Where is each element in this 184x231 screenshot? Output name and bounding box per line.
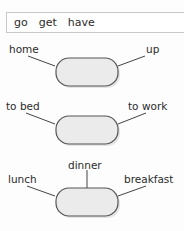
diagram-page: go get have home up to bed to work d — [0, 0, 184, 231]
connector-to-bed — [26, 113, 55, 124]
label-breakfast: breakfast — [124, 174, 173, 185]
connector-lunch — [27, 186, 55, 196]
connector-home — [28, 56, 55, 66]
collocation-diagram — [0, 0, 184, 231]
connector-breakfast — [118, 186, 146, 196]
label-dinner: dinner — [68, 160, 102, 171]
answer-node-3[interactable] — [56, 188, 118, 216]
connector-up — [118, 56, 145, 66]
label-to-work: to work — [128, 101, 167, 112]
answer-node-2[interactable] — [56, 116, 118, 144]
label-up: up — [146, 44, 159, 55]
answer-node-1[interactable] — [56, 58, 118, 86]
label-to-bed: to bed — [6, 101, 40, 112]
label-home: home — [9, 44, 39, 55]
label-lunch: lunch — [8, 174, 37, 185]
connector-to-work — [118, 113, 146, 124]
